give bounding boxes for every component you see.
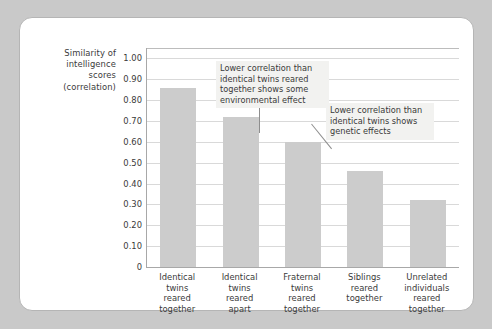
annotation-line: Lower correlation than <box>220 63 325 74</box>
bar <box>347 171 383 267</box>
y-axis-tick-label: 0.40 <box>116 179 142 187</box>
y-axis-tick-label: 0.70 <box>116 117 142 125</box>
y-axis-tick-label: 0.30 <box>116 200 142 208</box>
y-axis-tick-label: 0.20 <box>116 221 142 229</box>
annotation-line: together shows some <box>220 84 325 95</box>
figure-card: Similarity of intelligence scores (corre… <box>19 17 474 311</box>
x-axis-category-label: Unrelatedindividualsrearedtogether <box>390 272 464 314</box>
x-axis-category-label-line: reared <box>390 293 464 304</box>
bar <box>160 88 196 267</box>
annotation-genetic: Lower correlation thanidentical twins sh… <box>326 103 434 140</box>
y-axis-tick-labels: 1.000.900.800.700.600.500.400.300.200.10… <box>116 18 142 312</box>
annotation-line: environmental effect <box>220 95 325 106</box>
y-axis-title-line: scores <box>38 70 116 81</box>
y-axis-title-line: (correlation) <box>38 82 116 93</box>
x-axis-category-labels: IdenticaltwinsrearedtogetherIdenticaltwi… <box>146 272 458 316</box>
x-axis-category-label-line: together <box>390 304 464 315</box>
plot-top-rule <box>147 48 459 49</box>
y-axis-tick-label: 0.80 <box>116 96 142 104</box>
annotation-line: identical twins reared <box>220 74 325 85</box>
gridline <box>147 58 459 59</box>
figure-root: Similarity of intelligence scores (corre… <box>0 0 492 329</box>
bar <box>285 142 321 267</box>
annotation-line: genetic effects <box>330 126 430 137</box>
bar <box>223 117 259 267</box>
x-axis-category-label-line: individuals <box>390 283 464 294</box>
annotation-leader-line-environmental <box>259 107 260 133</box>
y-axis-tick-label: 1.00 <box>116 54 142 62</box>
y-axis-tick-label: 0 <box>116 263 142 271</box>
y-axis-title-line: intelligence <box>38 59 116 70</box>
y-axis-tick-label: 0.10 <box>116 242 142 250</box>
y-axis-title: Similarity of intelligence scores (corre… <box>38 48 116 93</box>
y-axis-title-line: Similarity of <box>38 48 116 59</box>
y-axis-tick-label: 0.90 <box>116 75 142 83</box>
y-axis-tick-label: 0.60 <box>116 138 142 146</box>
y-axis-tick-label: 0.50 <box>116 159 142 167</box>
x-axis-category-label-line: Unrelated <box>390 272 464 283</box>
annotation-line: Lower correlation than <box>330 105 430 116</box>
bar <box>410 200 446 267</box>
annotation-line: identical twins shows <box>330 116 430 127</box>
annotation-environmental: Lower correlation thanidentical twins re… <box>216 61 329 108</box>
x-axis-category-label-line: together <box>265 304 339 315</box>
